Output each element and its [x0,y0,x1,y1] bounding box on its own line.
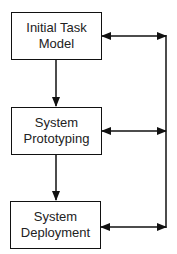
node-system-prototyping: System Prototyping [11,107,102,155]
node-initial-task-model: Initial Task Model [11,12,102,60]
node-system-deployment: System Deployment [10,201,101,249]
node-label-line2: Prototyping [24,131,90,147]
node-label-line2: Deployment [21,225,90,241]
node-label-line2: Model [39,36,74,52]
node-label-line1: System [35,115,78,131]
node-label-line1: System [34,209,77,225]
node-label-line1: Initial Task [26,20,86,36]
